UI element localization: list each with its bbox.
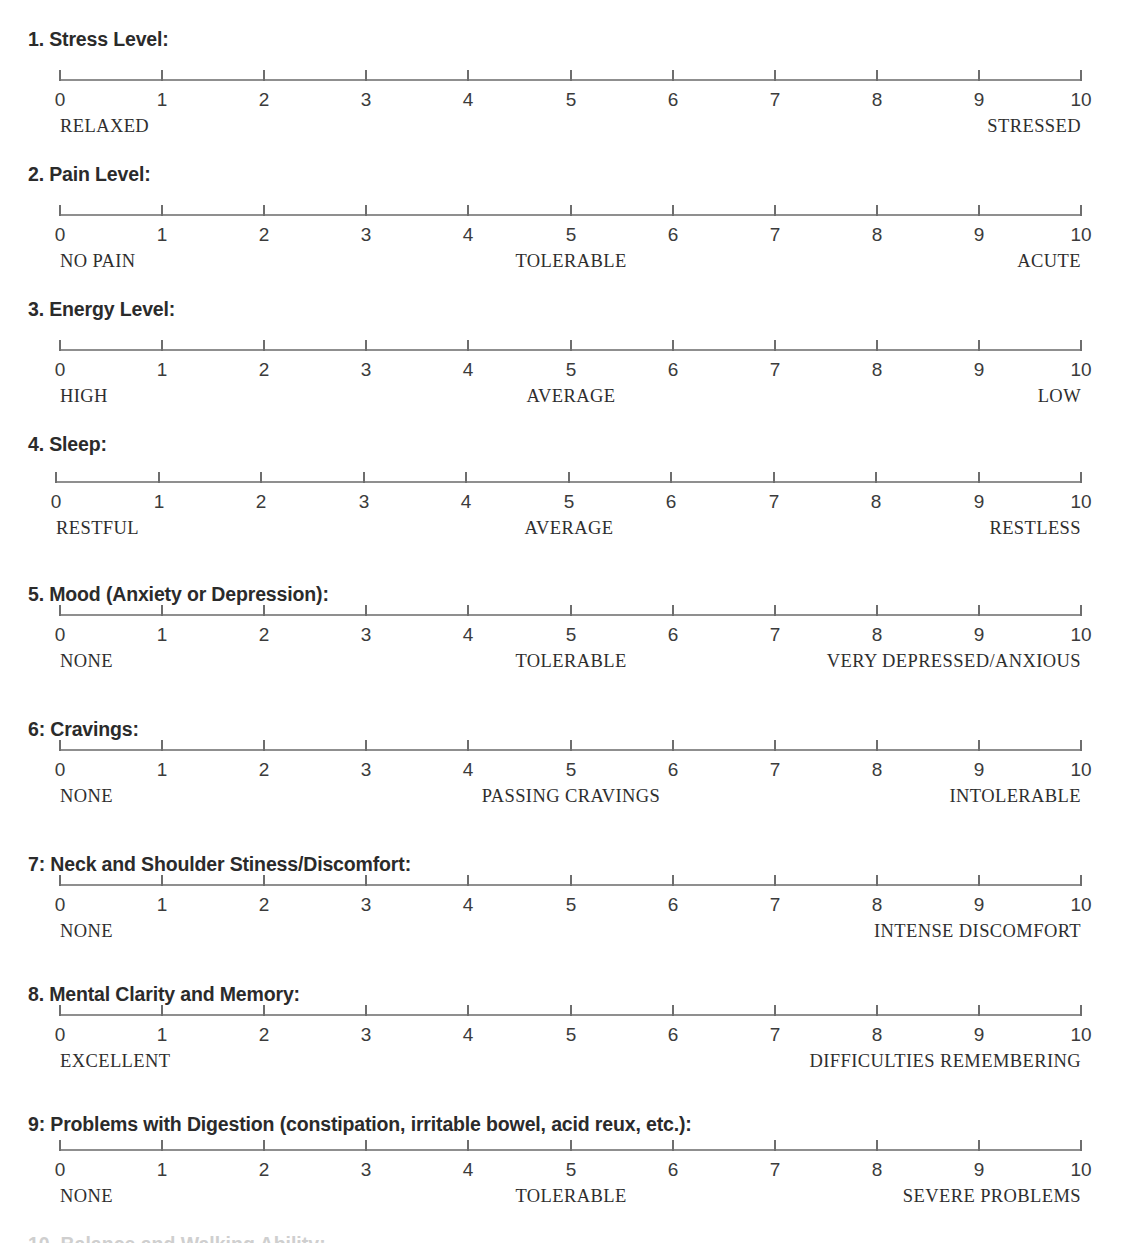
scale-tick-number[interactable]: 1 [157,894,168,916]
scale-tick-number[interactable]: 2 [259,759,270,781]
scale-tick-number[interactable]: 10 [1070,759,1091,781]
scale-tick[interactable] [59,70,61,81]
scale-tick[interactable] [672,605,674,616]
rating-scale[interactable]: 012345678910NONEPASSING CRAVINGSINTOLERA… [60,740,1081,802]
scale-tick-number[interactable]: 1 [154,491,165,513]
scale-tick-number[interactable]: 2 [259,894,270,916]
scale-tick-number[interactable]: 2 [259,224,270,246]
rating-scale[interactable]: 012345678910NONETOLERABLEVERY DEPRESSED/… [60,605,1081,667]
scale-tick[interactable] [263,70,265,81]
scale-tick[interactable] [365,605,367,616]
scale-tick[interactable] [365,740,367,751]
scale-tick[interactable] [570,740,572,751]
scale-tick-number[interactable]: 6 [668,359,679,381]
scale-tick-number[interactable]: 10 [1070,491,1091,513]
scale-tick-number[interactable]: 5 [566,1159,577,1181]
scale-tick[interactable] [876,875,878,886]
scale-tick-number[interactable]: 5 [566,359,577,381]
scale-tick-number[interactable]: 6 [666,491,677,513]
scale-tick-number[interactable]: 9 [974,491,985,513]
scale-tick[interactable] [59,1005,61,1016]
rating-scale[interactable]: 012345678910HIGHAVERAGELOW [60,340,1081,402]
scale-tick[interactable] [570,70,572,81]
scale-tick[interactable] [774,605,776,616]
scale-tick[interactable] [465,472,467,483]
scale-tick[interactable] [670,472,672,483]
scale-tick-number[interactable]: 9 [974,224,985,246]
scale-tick[interactable] [774,1140,776,1151]
scale-tick[interactable] [876,1005,878,1016]
scale-tick[interactable] [773,472,775,483]
scale-tick-number[interactable]: 2 [259,624,270,646]
scale-tick[interactable] [978,340,980,351]
scale-tick[interactable] [1080,70,1082,81]
scale-tick[interactable] [467,70,469,81]
scale-tick[interactable] [161,875,163,886]
rating-scale[interactable]: 012345678910RESTFULAVERAGERESTLESS [56,472,1081,534]
scale-tick[interactable] [672,70,674,81]
scale-tick[interactable] [365,205,367,216]
scale-tick[interactable] [978,875,980,886]
scale-tick-number[interactable]: 9 [974,359,985,381]
scale-tick[interactable] [1080,340,1082,351]
scale-tick-number[interactable]: 2 [259,1024,270,1046]
scale-tick[interactable] [260,472,262,483]
scale-tick-number[interactable]: 7 [770,759,781,781]
scale-tick[interactable] [161,1140,163,1151]
scale-tick-number[interactable]: 9 [974,1159,985,1181]
scale-tick-number[interactable]: 5 [566,624,577,646]
scale-tick[interactable] [365,70,367,81]
scale-tick-number[interactable]: 2 [259,89,270,111]
scale-tick-number[interactable]: 8 [872,89,883,111]
scale-tick[interactable] [1080,205,1082,216]
scale-tick[interactable] [978,740,980,751]
scale-tick-number[interactable]: 7 [769,491,780,513]
scale-tick[interactable] [774,205,776,216]
scale-tick[interactable] [978,605,980,616]
scale-tick-number[interactable]: 6 [668,1024,679,1046]
scale-tick[interactable] [161,340,163,351]
scale-tick[interactable] [1080,875,1082,886]
scale-tick-number[interactable]: 7 [770,624,781,646]
scale-tick-number[interactable]: 6 [668,894,679,916]
scale-tick[interactable] [467,605,469,616]
scale-tick-number[interactable]: 1 [157,89,168,111]
scale-tick[interactable] [570,1140,572,1151]
scale-tick[interactable] [365,340,367,351]
scale-tick-number[interactable]: 6 [668,1159,679,1181]
scale-tick[interactable] [263,875,265,886]
scale-tick-number[interactable]: 5 [566,224,577,246]
scale-tick[interactable] [1080,472,1082,483]
scale-tick-number[interactable]: 1 [157,359,168,381]
scale-tick-number[interactable]: 10 [1070,894,1091,916]
scale-tick-number[interactable]: 7 [770,894,781,916]
scale-tick-number[interactable]: 10 [1070,89,1091,111]
scale-tick[interactable] [158,472,160,483]
scale-tick-number[interactable]: 4 [463,224,474,246]
scale-tick-number[interactable]: 0 [51,491,62,513]
scale-tick[interactable] [774,340,776,351]
rating-scale[interactable]: 012345678910NONEINTENSE DISCOMFORT [60,875,1081,937]
scale-tick-number[interactable]: 0 [55,894,66,916]
scale-tick[interactable] [467,1005,469,1016]
scale-tick[interactable] [774,875,776,886]
scale-tick-number[interactable]: 7 [770,224,781,246]
scale-tick[interactable] [774,70,776,81]
scale-tick[interactable] [161,70,163,81]
scale-tick-number[interactable]: 3 [361,1159,372,1181]
scale-tick-number[interactable]: 8 [872,759,883,781]
scale-tick-number[interactable]: 1 [157,624,168,646]
scale-tick[interactable] [672,205,674,216]
scale-tick-number[interactable]: 5 [566,894,577,916]
scale-tick-number[interactable]: 4 [463,624,474,646]
scale-tick-number[interactable]: 3 [361,359,372,381]
scale-tick[interactable] [263,1005,265,1016]
scale-tick[interactable] [570,1005,572,1016]
scale-tick[interactable] [365,875,367,886]
scale-tick-number[interactable]: 8 [871,491,882,513]
scale-tick-number[interactable]: 0 [55,224,66,246]
scale-tick[interactable] [263,205,265,216]
scale-tick-number[interactable]: 7 [770,89,781,111]
scale-tick-number[interactable]: 3 [361,1024,372,1046]
scale-tick[interactable] [876,205,878,216]
